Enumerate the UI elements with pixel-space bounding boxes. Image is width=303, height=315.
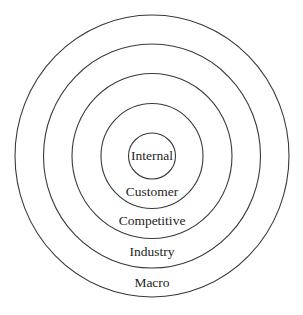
labels-group: Internal Customer Competitive Industry M… [119, 148, 186, 290]
label-internal: Internal [131, 148, 173, 163]
label-customer: Customer [126, 184, 179, 199]
label-competitive: Competitive [119, 213, 186, 228]
concentric-rings-diagram: Internal Customer Competitive Industry M… [0, 0, 303, 315]
label-industry: Industry [130, 244, 175, 259]
label-macro: Macro [134, 275, 169, 290]
